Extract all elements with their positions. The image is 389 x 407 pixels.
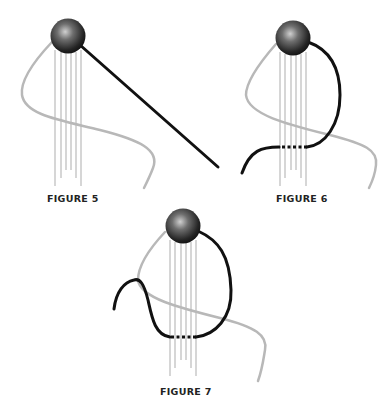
warp-threads [280,52,306,186]
working-thread [242,147,279,173]
figure-6-label: FIGURE 6 [276,193,328,204]
figure-5-label: FIGURE 5 [47,193,99,204]
figure-5 [22,19,218,189]
working-thread [196,231,231,337]
bead [276,21,311,56]
guide-thread [246,44,376,188]
guide-thread [138,232,265,381]
guide-thread [22,42,155,188]
bead [51,19,86,54]
figure-7-label: FIGURE 7 [160,386,212,397]
warp-threads [55,50,81,186]
figure-7 [114,209,265,382]
figure-6 [242,21,376,189]
bead [166,209,201,244]
